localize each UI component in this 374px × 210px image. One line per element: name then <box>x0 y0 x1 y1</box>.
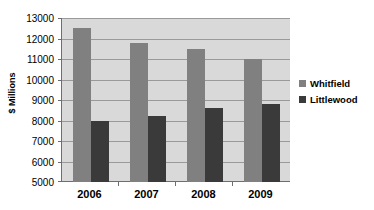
x-axis-tick-label: 2007 <box>118 188 175 200</box>
bar-littlewood-2006[interactable] <box>91 121 109 183</box>
y-axis-tick-label: 9000 <box>32 95 54 106</box>
legend-item-label: Whitfield <box>310 78 350 89</box>
bar-littlewood-2009[interactable] <box>262 104 280 182</box>
legend-item-littlewood[interactable]: Littlewood <box>299 94 358 105</box>
x-axis-tick-mark <box>118 182 119 186</box>
x-axis-tick-label: 2009 <box>232 188 289 200</box>
bar-littlewood-2007[interactable] <box>148 116 166 182</box>
x-axis-tick-mark <box>232 182 233 186</box>
bar-whitfield-2006[interactable] <box>73 28 91 182</box>
bar-chart: $ Millions 13000120001100010000900080007… <box>0 0 374 210</box>
chart-legend: WhitfieldLittlewood <box>299 78 358 105</box>
plot-area <box>61 18 290 182</box>
legend-item-whitfield[interactable]: Whitfield <box>299 78 358 89</box>
y-axis-tick-label: 5000 <box>32 177 54 188</box>
bar-littlewood-2008[interactable] <box>205 108 223 182</box>
y-axis-tick-label: 12000 <box>26 33 54 44</box>
bar-group <box>233 18 290 182</box>
bar-whitfield-2009[interactable] <box>244 59 262 182</box>
legend-swatch-icon <box>299 80 306 87</box>
x-axis-tick-mark <box>175 182 176 186</box>
bar-group <box>119 18 176 182</box>
bar-group <box>62 18 119 182</box>
bar-whitfield-2008[interactable] <box>187 49 205 182</box>
x-axis-tick-label: 2006 <box>61 188 118 200</box>
y-axis-tick-label: 6000 <box>32 156 54 167</box>
bar-whitfield-2007[interactable] <box>130 43 148 182</box>
x-axis-tick-label: 2008 <box>175 188 232 200</box>
y-axis-tick-label: 7000 <box>32 136 54 147</box>
bar-group <box>176 18 233 182</box>
bars-layer <box>62 18 290 182</box>
y-axis-tick-label: 8000 <box>32 115 54 126</box>
y-axis-title-label: $ Millions <box>6 72 16 113</box>
legend-swatch-icon <box>299 96 306 103</box>
y-axis-tick-label: 13000 <box>26 13 54 24</box>
y-axis-tick-labels: 1300012000110001000090008000700060005000 <box>18 18 58 182</box>
x-axis-tick-labels: 2006200720082009 <box>61 188 289 200</box>
y-axis-tick-label: 11000 <box>27 54 54 65</box>
y-axis-tick-label: 10000 <box>26 74 54 85</box>
legend-item-label: Littlewood <box>310 94 358 105</box>
